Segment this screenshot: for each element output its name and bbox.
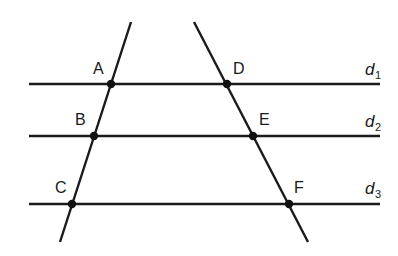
point-label-d: D	[233, 60, 245, 77]
point-a-dot	[107, 80, 115, 88]
point-b-dot	[90, 132, 98, 140]
parallel-lines	[29, 84, 380, 204]
transversal-lines	[60, 22, 308, 242]
transversal-right	[194, 22, 308, 242]
line-label-d3: d3	[365, 179, 381, 200]
line-label-d2: d2	[365, 112, 381, 133]
point-d-dot	[223, 80, 231, 88]
point-c-dot	[68, 200, 76, 208]
point-label-c: C	[55, 179, 67, 196]
point-label-a: A	[93, 60, 104, 77]
line-label-d1: d1	[365, 60, 381, 81]
transversal-left	[60, 22, 131, 242]
point-label-b: B	[75, 111, 86, 128]
point-f-dot	[285, 200, 293, 208]
point-labels: ABCDEF	[55, 60, 304, 196]
point-label-e: E	[259, 111, 270, 128]
point-e-dot	[249, 132, 257, 140]
thales-diagram: ABCDEF d1d2d3	[0, 0, 398, 256]
intersection-points	[68, 80, 293, 208]
line-labels: d1d2d3	[365, 60, 381, 200]
point-label-f: F	[294, 179, 304, 196]
